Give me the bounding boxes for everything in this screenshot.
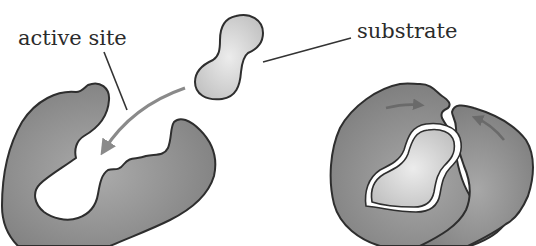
active-site-label: active site — [18, 26, 127, 50]
enzyme-substrate-complex — [331, 84, 533, 246]
enzyme-open-shape — [2, 83, 215, 246]
induced-fit-diagram: active site substrate — [0, 0, 536, 246]
substrate-free-shape — [195, 15, 263, 99]
substrate-label: substrate — [357, 19, 457, 43]
substrate-leader-line — [263, 38, 351, 62]
